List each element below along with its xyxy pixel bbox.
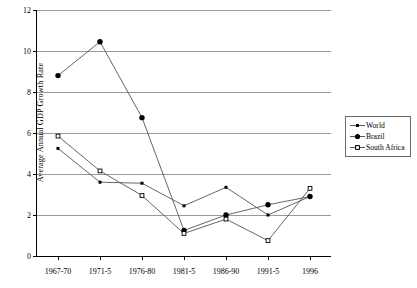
- data-point: [97, 39, 102, 44]
- y-tick-label: 0: [27, 252, 31, 261]
- data-point: [99, 181, 102, 184]
- world-marker-icon: [349, 120, 366, 131]
- legend-item-brazil[interactable]: Brazil: [349, 131, 408, 142]
- data-point: [266, 239, 270, 243]
- x-tick-label: 1976-80: [129, 267, 156, 276]
- south-africa-marker-icon: [349, 142, 366, 153]
- y-tick-label: 6: [27, 129, 31, 138]
- data-point: [182, 232, 186, 236]
- series-line: [58, 136, 310, 241]
- y-tick-mark: [33, 256, 37, 257]
- data-point: [307, 194, 312, 199]
- gdp-growth-line-chart: Average Annual GDP Growth Rate 024681012…: [0, 0, 417, 288]
- series-line: [58, 42, 310, 231]
- x-tick-mark: [184, 256, 185, 260]
- x-tick-mark: [58, 256, 59, 260]
- x-tick-mark: [268, 256, 269, 260]
- x-tick-mark: [100, 256, 101, 260]
- x-tick-label: 1991-5: [257, 267, 280, 276]
- brazil-marker-icon: [349, 131, 366, 142]
- y-tick-label: 4: [27, 170, 31, 179]
- data-point: [57, 147, 60, 150]
- y-tick-label: 2: [27, 211, 31, 220]
- data-point: [183, 204, 186, 207]
- series-layer: [37, 10, 331, 256]
- plot-area: 024681012 1967-701971-51976-801981-51986…: [36, 10, 331, 257]
- legend-item-world[interactable]: World: [349, 120, 408, 131]
- legend-label-brazil: Brazil: [366, 131, 385, 142]
- legend-label-south-africa: South Africa: [366, 142, 405, 153]
- series-south-africa: [56, 134, 312, 242]
- data-point: [225, 186, 228, 189]
- y-tick-label: 12: [23, 6, 31, 15]
- data-point: [265, 202, 270, 207]
- data-point: [267, 214, 270, 217]
- series-world: [57, 147, 312, 217]
- data-point: [224, 217, 228, 221]
- data-point: [140, 194, 144, 198]
- x-tick-label: 1986-90: [213, 267, 240, 276]
- x-tick-mark: [226, 256, 227, 260]
- x-tick-label: 1967-70: [45, 267, 72, 276]
- x-tick-label: 1996: [302, 267, 318, 276]
- data-point: [139, 115, 144, 120]
- legend-item-south-africa[interactable]: South Africa: [349, 142, 408, 153]
- legend-label-world: World: [366, 120, 385, 131]
- data-point: [98, 169, 102, 173]
- y-tick-label: 10: [23, 47, 31, 56]
- data-point: [308, 186, 312, 190]
- data-point: [141, 182, 144, 185]
- data-point: [55, 73, 60, 78]
- x-tick-label: 1981-5: [173, 267, 196, 276]
- x-tick-label: 1971-5: [89, 267, 112, 276]
- legend: World Brazil South Africa: [345, 116, 411, 157]
- series-brazil: [55, 39, 312, 233]
- data-point: [56, 134, 60, 138]
- x-tick-mark: [310, 256, 311, 260]
- x-tick-mark: [142, 256, 143, 260]
- y-tick-label: 8: [27, 88, 31, 97]
